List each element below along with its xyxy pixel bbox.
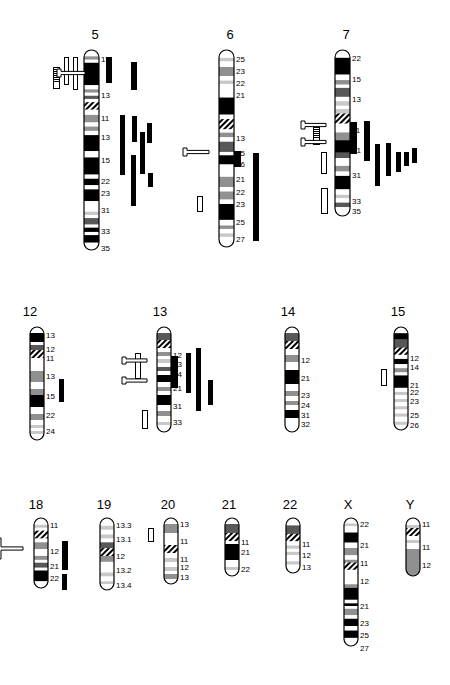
ideogram-Y [405,517,421,577]
ideogram-canvas: 5151311131522233133356252322211315162122… [0,0,450,685]
chromosome-group-Y: Y111112 [0,0,450,685]
band-label: 12 [422,562,431,570]
band-label: 11 [422,521,430,529]
chromosome-title-Y: Y [396,498,424,511]
band-label: 11 [422,544,430,552]
